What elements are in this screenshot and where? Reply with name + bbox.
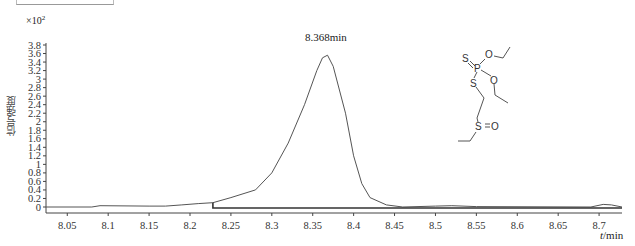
x-tick-label: 8.4 [347, 220, 361, 231]
atom-o-2: O [490, 75, 498, 86]
x-tick-label: 8.15 [140, 220, 158, 231]
x-tick-label: 8.3 [265, 220, 278, 231]
atom-s-thione: S [462, 53, 469, 64]
x-tick-label: 8.25 [222, 220, 240, 231]
x-tick-label: 8.35 [304, 220, 322, 231]
x-tick-label: 8.55 [467, 220, 485, 231]
atom-s-sulfoxide: S [475, 121, 482, 132]
x-tick-label: 8.6 [511, 220, 524, 231]
baseline-line [213, 203, 622, 208]
x-tick-label: 8.5 [429, 220, 442, 231]
atom-o-1: O [485, 49, 493, 60]
x-tick-label: 8.1 [102, 220, 115, 231]
x-tick-label: 8.7 [593, 220, 606, 231]
molecular-structure: S P O O S S O [440, 20, 560, 150]
x-tick-label: 8.45 [385, 220, 403, 231]
atom-p: P [474, 63, 481, 74]
atom-s-thio: S [470, 78, 477, 89]
x-tick-label: 8.2 [183, 220, 196, 231]
x-tick-label: 8.05 [58, 220, 76, 231]
y-tick-label: 3.8 [28, 40, 41, 51]
atom-o-sulfoxide: O [491, 121, 499, 132]
x-tick-label: 8.65 [549, 220, 567, 231]
